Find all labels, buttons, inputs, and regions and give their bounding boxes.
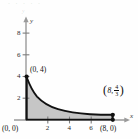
x-tick-label-4: 4 xyxy=(68,125,72,132)
point-marker-8-4over3 xyxy=(111,113,115,117)
x-tick-label-2: 2 xyxy=(46,125,50,132)
point-marker-0-4 xyxy=(25,74,29,78)
y-tick-label-8: 8 xyxy=(17,30,21,37)
figure-container: - - - - - y y xyxy=(0,0,138,139)
x-axis-label: x xyxy=(130,113,133,120)
fraction-denominator: 3 xyxy=(114,90,119,97)
point-marker-8-0 xyxy=(111,118,115,122)
x-tick-label-6: 6 xyxy=(89,125,93,132)
y-tick-label-4: 4 xyxy=(17,73,21,80)
y-axis-label: y xyxy=(30,18,33,25)
y-tick-label-2: 2 xyxy=(17,95,21,102)
label-point-0-4: (0, 4) xyxy=(30,66,46,74)
fraction-x-part: 8, xyxy=(107,87,114,95)
label-origin: (0, 0) xyxy=(2,125,18,133)
y-tick-label-6: 6 xyxy=(17,52,21,59)
paren-close: ) xyxy=(120,85,124,95)
plot-canvas xyxy=(0,0,138,139)
y-axis-arrow-icon xyxy=(23,17,28,23)
label-point-8-0: (8, 0) xyxy=(100,125,116,133)
label-point-8-4over3: ( 8, 4 3 ) xyxy=(103,84,124,97)
fraction-4-over-3: 4 3 xyxy=(114,84,119,97)
